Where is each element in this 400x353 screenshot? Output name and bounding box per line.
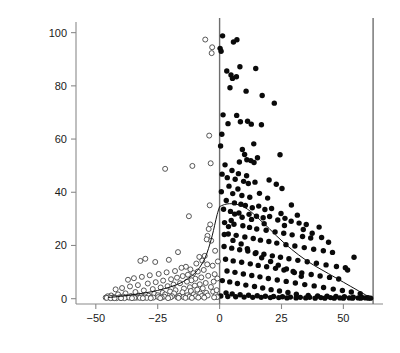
x-tick-label: 0	[217, 312, 223, 324]
data-point-filled	[350, 295, 355, 300]
data-point-open	[176, 295, 181, 300]
data-point-filled	[264, 264, 269, 269]
data-point-filled	[250, 295, 255, 300]
data-point-filled	[222, 220, 227, 225]
data-point-filled	[229, 168, 234, 173]
data-point-filled	[266, 177, 271, 182]
data-point-filled	[270, 253, 275, 258]
data-point-filled	[292, 270, 297, 275]
data-point-filled	[259, 122, 264, 127]
y-tick-label: 20	[55, 239, 67, 251]
data-point-filled	[282, 216, 287, 221]
data-point-filled	[220, 112, 225, 117]
data-point-filled	[276, 262, 281, 267]
data-point-filled	[284, 295, 289, 300]
data-point-filled	[293, 295, 298, 300]
data-point-open	[185, 272, 190, 277]
data-point-open	[196, 295, 201, 300]
data-point-filled	[237, 159, 242, 164]
data-point-filled	[303, 295, 308, 300]
data-point-filled	[253, 66, 258, 71]
data-point-filled	[349, 289, 354, 294]
data-point-filled	[254, 226, 259, 231]
data-point-filled	[317, 273, 322, 278]
data-point-filled	[286, 256, 291, 261]
data-point-open	[176, 250, 181, 255]
data-point-filled	[323, 262, 328, 267]
data-point-filled	[247, 225, 252, 230]
data-point-filled	[299, 274, 304, 279]
data-point-filled	[218, 143, 223, 148]
data-point-filled	[331, 286, 336, 291]
data-point-open	[205, 262, 210, 267]
data-point-filled	[221, 207, 226, 212]
data-point-filled	[246, 181, 251, 186]
data-point-filled	[334, 264, 339, 269]
data-point-filled	[252, 179, 257, 184]
data-point-filled	[251, 141, 256, 146]
left-branch-fit	[108, 207, 219, 298]
data-point-filled	[330, 250, 335, 255]
data-point-filled	[234, 74, 239, 79]
data-point-filled	[351, 254, 356, 259]
data-point-filled	[295, 258, 300, 263]
data-point-filled	[235, 186, 240, 191]
data-point-open	[201, 267, 206, 272]
data-point-filled	[302, 282, 307, 287]
data-point-filled	[232, 200, 237, 205]
data-points-group	[103, 33, 373, 301]
data-point-open	[189, 295, 194, 300]
data-point-filled	[231, 258, 236, 263]
data-point-filled	[312, 295, 317, 300]
data-point-filled	[253, 251, 258, 256]
data-point-open	[120, 286, 125, 291]
data-point-filled	[233, 233, 238, 238]
data-point-open	[131, 276, 136, 281]
data-point-filled	[238, 241, 243, 246]
data-point-filled	[311, 247, 316, 252]
data-point-open	[147, 273, 152, 278]
data-point-filled	[243, 282, 248, 287]
data-point-filled	[238, 119, 243, 124]
data-point-filled	[242, 152, 247, 157]
open-circle-series	[103, 37, 220, 301]
chart-canvas: 020406080100−50−2502550	[0, 0, 400, 353]
data-point-filled	[332, 295, 337, 300]
data-point-filled	[274, 240, 279, 245]
data-point-filled	[341, 295, 346, 300]
data-point-filled	[296, 220, 301, 225]
data-point-filled	[220, 278, 225, 283]
data-point-filled	[250, 205, 255, 210]
data-point-open	[215, 259, 220, 264]
data-point-filled	[319, 235, 324, 240]
data-point-open	[202, 295, 207, 300]
y-tick-label: 40	[55, 186, 67, 198]
data-point-filled	[345, 267, 350, 272]
data-point-filled	[293, 280, 298, 285]
data-point-filled	[269, 206, 274, 211]
data-point-filled	[249, 217, 254, 222]
y-tick-label: 0	[61, 293, 67, 305]
data-point-open	[153, 259, 158, 264]
data-point-filled	[241, 294, 246, 299]
data-point-open	[135, 283, 140, 288]
data-point-open	[173, 269, 178, 274]
data-point-filled	[268, 259, 273, 264]
data-point-filled	[244, 173, 249, 178]
data-point-open	[207, 133, 212, 138]
data-point-filled	[221, 244, 226, 249]
data-point-filled	[292, 243, 297, 248]
data-point-filled	[260, 215, 265, 220]
data-point-filled	[326, 240, 331, 245]
data-point-filled	[224, 198, 229, 203]
data-point-filled	[224, 268, 229, 273]
data-point-filled	[258, 237, 263, 242]
data-point-filled	[289, 232, 294, 237]
data-point-filled	[245, 246, 250, 251]
data-point-filled	[302, 245, 307, 250]
data-point-filled	[222, 232, 227, 237]
data-point-open	[213, 248, 218, 253]
data-point-filled	[274, 182, 279, 187]
data-point-open	[212, 295, 217, 300]
data-point-open	[166, 257, 171, 262]
